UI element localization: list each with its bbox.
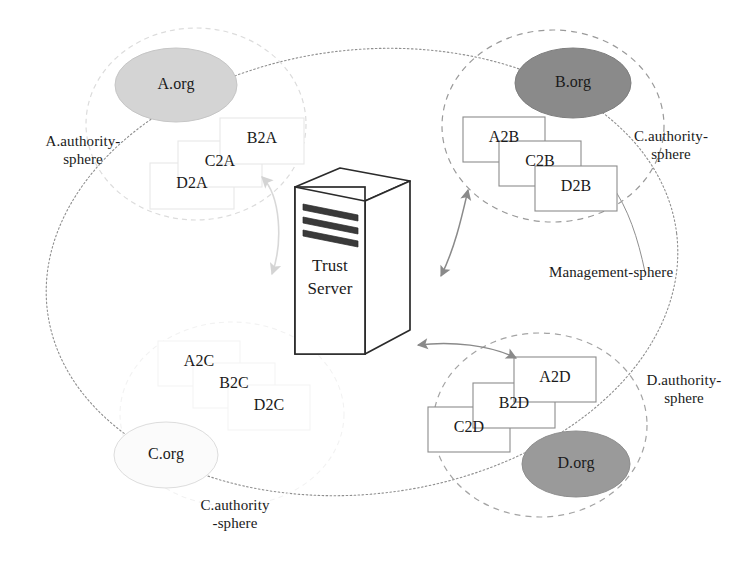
server-side-face — [365, 181, 410, 354]
authority-sphere-a-label-line2: sphere — [63, 151, 103, 167]
org-label-a: A.org — [116, 75, 236, 94]
connector-b-server — [441, 190, 468, 276]
trust-server-label: TrustServer — [293, 255, 367, 301]
authority-sphere-c-label-line2: -sphere — [213, 515, 258, 531]
card-label-a2c: A2C — [158, 352, 240, 371]
card-label-d2a: D2A — [150, 174, 234, 193]
authority-sphere-a-label: A.authority-sphere — [18, 133, 148, 168]
diagram-vector-layer — [0, 0, 749, 572]
card-label-b2a: B2A — [220, 129, 304, 148]
card-label-d2b: D2B — [535, 177, 617, 196]
card-label-b2d: B2D — [473, 394, 555, 413]
org-label-b: B.org — [513, 73, 633, 92]
authority-sphere-c-label: C.authority-sphere — [155, 497, 315, 532]
card-label-c2a: C2A — [178, 152, 262, 171]
card-label-c2d: C2D — [428, 418, 510, 437]
authority-sphere-d-label-line2: sphere — [664, 390, 704, 406]
authority-sphere-a-label-line1: A.authority- — [46, 133, 121, 149]
connector-a-server — [262, 177, 279, 274]
card-label-a2d: A2D — [514, 368, 596, 387]
authority-sphere-c-label-line1: C.authority — [200, 497, 269, 513]
org-label-c: C.org — [106, 445, 226, 464]
org-label-d: D.org — [516, 454, 636, 473]
trust-server-label-line2: Server — [308, 279, 353, 298]
authority-sphere-b-label: C.authority-sphere — [600, 128, 742, 163]
authority-sphere-d-label: D.authority-sphere — [619, 372, 749, 407]
management-sphere-label: Management-sphere — [549, 264, 729, 282]
authority-sphere-b-label-line2: sphere — [651, 146, 691, 162]
card-label-d2c: D2C — [228, 396, 310, 415]
diagram-canvas: Management-sphere A.authority-sphere A.o… — [0, 0, 749, 572]
trust-server-label-line1: Trust — [312, 256, 348, 275]
connector-d-server — [418, 344, 516, 358]
authority-sphere-b-label-line1: C.authority- — [634, 128, 708, 144]
card-label-b2c: B2C — [193, 374, 275, 393]
card-label-c2b: C2B — [499, 152, 581, 171]
authority-sphere-d-label-line1: D.authority- — [647, 372, 722, 388]
card-label-a2b: A2B — [463, 128, 545, 147]
